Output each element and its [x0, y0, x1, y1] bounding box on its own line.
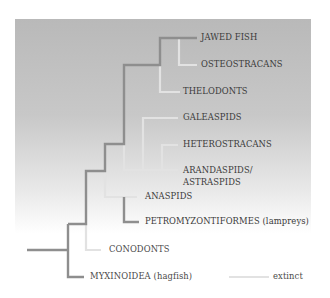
branch-myxinoidea: [68, 224, 84, 277]
taxon-label-osteostracans: OSTEOSTRACANS: [201, 59, 283, 70]
branch-thelodonts: [160, 66, 180, 92]
branch-conodonts: [86, 224, 101, 250]
taxon-label-myxinoidea: MYXINOIDEA (hagfish): [90, 271, 192, 282]
taxon-label-galeaspids: GALEASPIDS: [183, 112, 242, 123]
branch-anaspids: [105, 171, 137, 197]
extant-branches: [27, 38, 197, 277]
branch-arandaspids: [124, 144, 178, 170]
taxon-label-jawed-fish: JAWED FISH: [201, 32, 257, 43]
taxon-label-conodonts: CONODONTS: [109, 244, 170, 255]
taxon-label-anaspids: ANASPIDS: [145, 191, 192, 202]
branch-osteostracans: [179, 39, 197, 65]
taxon-label-astraspids: ASTRASPIDS: [183, 177, 241, 188]
legend-extinct-label: extinct: [273, 271, 303, 282]
branch-petromyzontiformes: [124, 197, 139, 222]
taxon-label-petromyzontiformes: PETROMYZONTIFORMES (lampreys): [145, 216, 309, 227]
taxon-label-arandaspids: ARANDASPIDS/: [183, 165, 253, 176]
taxon-label-thelodonts: THELODONTS: [183, 86, 248, 97]
taxon-label-heterostracans: HETEROSTRACANS: [183, 139, 272, 150]
branch-heterostracans: [162, 145, 178, 170]
extinct-branches: [86, 39, 269, 277]
